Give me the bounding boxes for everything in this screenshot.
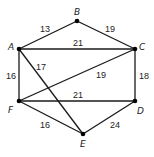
nodes-layer: [17, 19, 138, 137]
vertex-a-dot: [17, 47, 22, 52]
edge-d-e: [83, 101, 135, 134]
vertex-label: F: [8, 105, 14, 115]
edge-weight-label: 19: [96, 70, 106, 80]
vertex-label: B: [74, 7, 80, 17]
edge-weight-label: 17: [36, 62, 46, 72]
node-labels-layer: ABCDEF: [7, 7, 146, 149]
edge-weight-label: 19: [105, 24, 115, 34]
edge-weights-layer: 13192116171918211624: [6, 24, 149, 130]
edge-weight-label: 16: [40, 120, 50, 130]
edge-weight-label: 21: [73, 90, 83, 100]
vertex-label: A: [7, 42, 14, 52]
edge-f-e: [19, 101, 83, 134]
weighted-graph-diagram: 13192116171918211624 ABCDEF: [0, 0, 154, 157]
vertex-f-dot: [17, 99, 22, 104]
vertex-e-dot: [81, 132, 86, 137]
vertex-c-dot: [133, 47, 138, 52]
edge-weight-label: 16: [6, 71, 16, 81]
vertex-d-dot: [133, 99, 138, 104]
edge-weight-label: 21: [73, 38, 83, 48]
vertex-label: E: [80, 139, 86, 149]
vertex-b-dot: [75, 19, 80, 24]
graph-canvas: 13192116171918211624 ABCDEF: [0, 0, 154, 157]
edge-weight-label: 24: [110, 120, 120, 130]
edge-weight-label: 13: [40, 24, 50, 34]
edge-weight-label: 18: [139, 71, 149, 81]
vertex-label: C: [139, 42, 146, 52]
vertex-label: D: [137, 106, 144, 116]
